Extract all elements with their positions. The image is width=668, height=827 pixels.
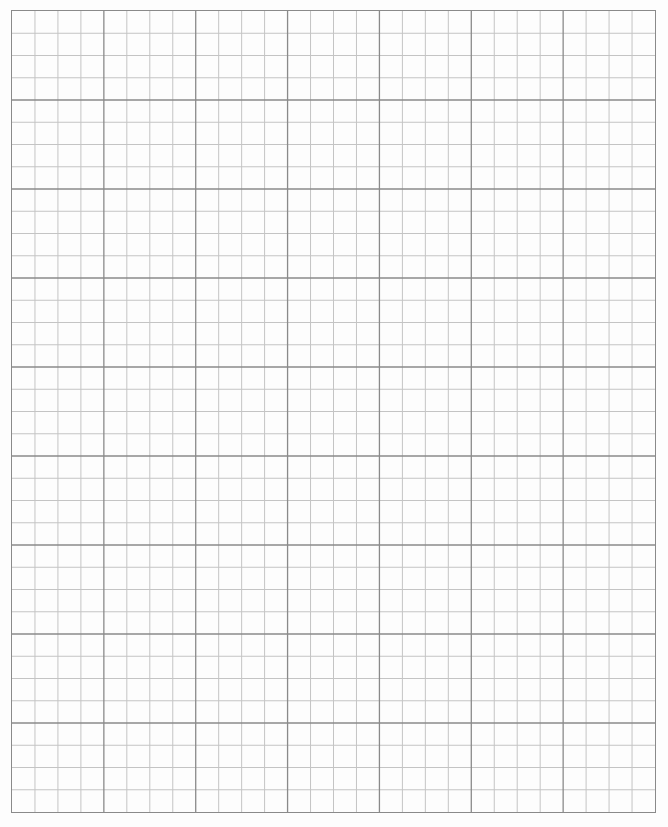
grid-lines [12, 11, 655, 812]
grid-area [11, 10, 656, 813]
graph-paper-sheet [0, 0, 668, 827]
